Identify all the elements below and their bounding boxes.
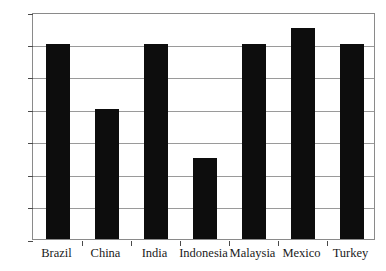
bar xyxy=(95,109,119,239)
x-axis-category-label: Brazil xyxy=(32,246,81,260)
bar xyxy=(193,158,217,239)
x-axis-category-label: Malaysia xyxy=(228,246,277,260)
x-axis-category-label: Mexico xyxy=(277,246,326,260)
cropped-title-fragment: ' ' xyxy=(0,0,386,4)
x-axis-category-label: China xyxy=(81,246,130,260)
cropped-title-text: ' ' xyxy=(86,0,99,3)
bar xyxy=(340,44,364,239)
bar xyxy=(242,44,266,239)
x-axis-category-label: Turkey xyxy=(326,246,375,260)
bar xyxy=(291,28,315,239)
bars-layer xyxy=(33,14,374,239)
bar xyxy=(144,44,168,239)
x-axis-category-label: Indonesia xyxy=(179,246,228,260)
x-axis-category-label: India xyxy=(130,246,179,260)
bar xyxy=(46,44,70,239)
bar-chart-figure: ' ' 8486889092949698 BrazilChinaIndiaInd… xyxy=(0,0,386,271)
plot-area xyxy=(32,13,375,240)
y-axis-tick xyxy=(28,241,33,242)
